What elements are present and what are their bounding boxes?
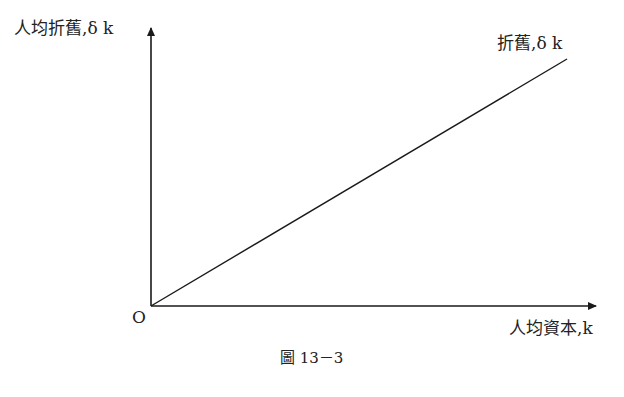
x-axis-label: 人均資本,k bbox=[509, 314, 593, 339]
line-label: 折舊,δ k bbox=[497, 29, 562, 54]
figure-caption: 圖 13－3 bbox=[280, 346, 343, 367]
y-axis-label: 人均折舊,δ k bbox=[14, 14, 113, 39]
origin-label: O bbox=[132, 307, 146, 327]
depreciation-line bbox=[151, 59, 567, 306]
